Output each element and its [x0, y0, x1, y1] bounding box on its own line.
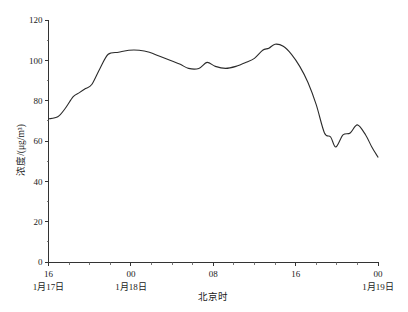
- x-axis-tick-labels: 1600081600: [44, 269, 383, 279]
- series-line-concentration: [49, 44, 379, 157]
- y-tick-label: 20: [34, 217, 44, 227]
- x-tick-label: 16: [291, 269, 301, 279]
- y-tick-label: 60: [34, 136, 44, 146]
- x-axis-title: 北京时: [198, 291, 228, 302]
- y-tick-label: 120: [29, 15, 43, 25]
- x-tick-label: 16: [44, 269, 54, 279]
- y-axis-ticks: [45, 20, 49, 262]
- y-tick-label: 40: [34, 177, 44, 187]
- x-tick-label: 00: [126, 269, 136, 279]
- x-tick-label: 08: [209, 269, 219, 279]
- chart-figure: 020406080100120 1600081600 1月17日1月18日1月1…: [0, 0, 408, 312]
- x-date-label: 1月18日: [115, 282, 147, 292]
- x-tick-label: 00: [374, 269, 384, 279]
- line-chart: 020406080100120 1600081600 1月17日1月18日1月1…: [0, 0, 408, 312]
- axes-group: [49, 20, 379, 263]
- y-tick-label: 100: [29, 56, 43, 66]
- x-axis-date-labels: 1月17日1月18日1月19日: [33, 282, 394, 292]
- y-axis-tick-labels: 020406080100120: [29, 15, 43, 267]
- y-tick-label: 0: [38, 257, 43, 267]
- x-date-label: 1月17日: [33, 282, 65, 292]
- x-date-label: 1月19日: [362, 282, 394, 292]
- y-axis-title: 浓度/(μg/m³): [15, 124, 27, 176]
- y-tick-label: 80: [34, 96, 44, 106]
